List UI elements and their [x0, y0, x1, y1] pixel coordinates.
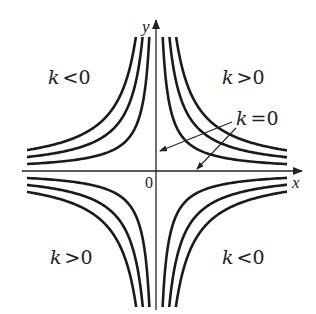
region-label-top-right: k>0: [222, 66, 265, 88]
svg-text:k<0: k<0: [222, 246, 265, 268]
y-axis-label: y: [140, 17, 150, 36]
svg-text:k<0: k<0: [48, 66, 91, 88]
origin-label: 0: [145, 174, 153, 191]
svg-text:k>0: k>0: [50, 246, 93, 268]
level-curves-diagram: y x 0 k<0 k>0 k>0 k<0 k=0: [0, 0, 316, 314]
svg-text:k=0: k=0: [236, 107, 279, 129]
region-label-top-left: k<0: [48, 66, 91, 88]
svg-text:k>0: k>0: [222, 66, 265, 88]
level-curve-top-right-3: [175, 31, 291, 151]
k-zero-annotation: k=0: [236, 107, 279, 129]
region-label-bottom-left: k>0: [50, 246, 93, 268]
level-curve-top-right-2: [169, 31, 291, 158]
x-axis-label: x: [291, 173, 300, 192]
region-label-bottom-right: k<0: [222, 246, 265, 268]
level-curve-top-left-2: [21, 31, 143, 158]
level-curve-top-left-3: [21, 31, 137, 151]
